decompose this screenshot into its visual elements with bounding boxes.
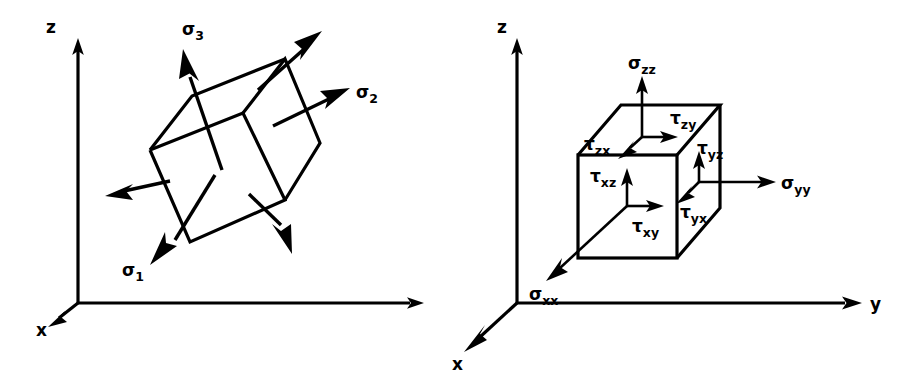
axis-label-z: z: [497, 17, 507, 37]
x-axis-line: [480, 303, 517, 337]
sigma1-arrowhead: [150, 232, 177, 265]
principal-stress-diagram: z x σ3: [0, 0, 452, 380]
stress-label-sigma-yy: σyy: [781, 173, 811, 197]
principal-stress-cube: [150, 59, 320, 242]
sigma-xx-arrowhead: [546, 258, 568, 281]
stress-label-sigma1: σ1: [122, 260, 144, 284]
cartesian-stress-diagram: z x y σzz τzy: [452, 0, 903, 380]
stress-label-sigma2: σ2: [356, 82, 378, 106]
stress-label-sigma3: σ3: [182, 19, 204, 43]
axis-label-z: z: [46, 17, 56, 37]
x-axis-arrowhead: [464, 325, 487, 352]
sigma3-opp-arrowhead: [272, 224, 292, 254]
stress-arrow-sigma1-opposite: [105, 181, 170, 200]
stress-element-figure: z x σ3: [0, 0, 903, 380]
axis-label-x: x: [36, 320, 47, 340]
sigma3-arrowhead: [179, 49, 199, 81]
axis-label-x: x: [452, 354, 463, 374]
sigma2-arrowhead: [320, 88, 350, 109]
sigma1-opp-arrowhead: [105, 184, 133, 200]
stress-label-sigma-zz: σzz: [628, 53, 656, 77]
axis-label-y: y: [870, 294, 881, 314]
